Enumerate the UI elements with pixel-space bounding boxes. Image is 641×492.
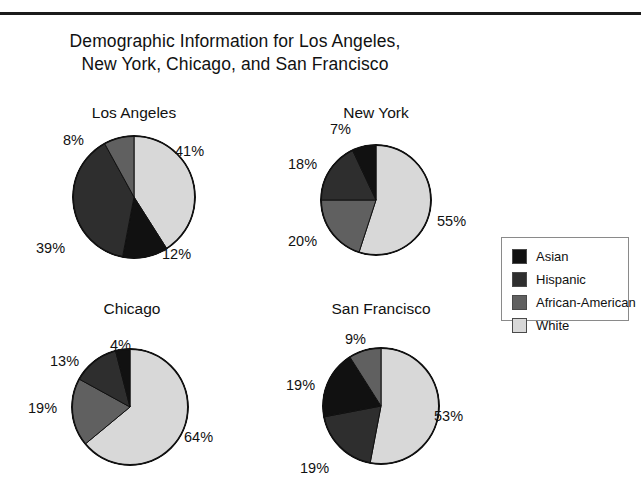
legend-item-african-american[interactable]: African-American bbox=[512, 293, 617, 312]
pct-san-francisco-white: 53% bbox=[434, 408, 463, 424]
legend-label-hispanic: Hispanic bbox=[536, 272, 586, 287]
panel-title-new-york: New York bbox=[286, 104, 466, 122]
legend-item-white[interactable]: White bbox=[512, 316, 617, 335]
pct-chicago-white: 64% bbox=[184, 429, 213, 445]
pct-los-angeles-hispanic: 39% bbox=[36, 240, 65, 256]
pct-new-york-hispanic: 18% bbox=[288, 156, 317, 172]
panel-title-san-francisco: San Francisco bbox=[286, 300, 476, 318]
figure-title: Demographic Information for Los Angeles,… bbox=[0, 30, 470, 76]
legend-swatch-asian bbox=[512, 249, 527, 264]
pct-new-york-african-american: 20% bbox=[288, 233, 317, 249]
header-rule bbox=[0, 12, 641, 15]
legend-label-asian: Asian bbox=[536, 249, 569, 264]
pct-new-york-asian: 7% bbox=[330, 121, 351, 137]
legend-swatch-african-american bbox=[512, 295, 527, 310]
pie-san-francisco bbox=[322, 347, 440, 465]
legend-label-white: White bbox=[536, 318, 569, 333]
legend: Asian Hispanic African-American White bbox=[501, 237, 629, 321]
pie-new-york bbox=[320, 144, 432, 256]
pct-los-angeles-white: 41% bbox=[175, 143, 204, 159]
pct-chicago-african-american: 19% bbox=[28, 400, 57, 416]
legend-swatch-white bbox=[512, 318, 527, 333]
pct-chicago-asian: 4% bbox=[110, 337, 131, 353]
legend-item-asian[interactable]: Asian bbox=[512, 247, 617, 266]
pct-san-francisco-hispanic: 19% bbox=[300, 460, 329, 476]
pct-los-angeles-asian: 12% bbox=[162, 246, 191, 262]
panel-title-chicago: Chicago bbox=[34, 300, 230, 318]
pct-new-york-white: 55% bbox=[437, 213, 466, 229]
legend-swatch-hispanic bbox=[512, 272, 527, 287]
pct-los-angeles-african-american: 8% bbox=[63, 132, 84, 148]
legend-item-hispanic[interactable]: Hispanic bbox=[512, 270, 617, 289]
pie-svg-new-york bbox=[320, 144, 432, 256]
demographics-figure: Demographic Information for Los Angeles,… bbox=[0, 0, 641, 492]
pie-chicago bbox=[71, 348, 189, 466]
pct-chicago-hispanic: 13% bbox=[50, 353, 79, 369]
pie-svg-san-francisco bbox=[322, 347, 440, 465]
pct-san-francisco-asian: 19% bbox=[286, 377, 315, 393]
legend-label-african-american: African-American bbox=[536, 295, 636, 310]
pie-svg-chicago bbox=[71, 348, 189, 466]
pct-san-francisco-african-american: 9% bbox=[345, 331, 366, 347]
panel-title-los-angeles: Los Angeles bbox=[34, 104, 234, 122]
